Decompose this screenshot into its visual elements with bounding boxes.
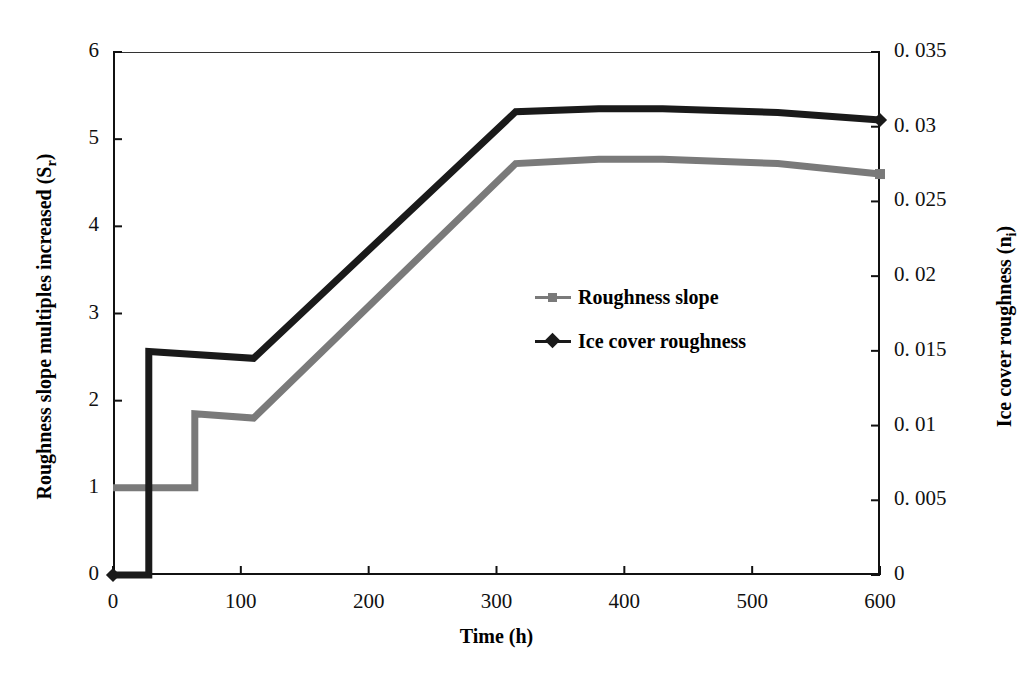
y-axis-left-title-tail: ): [33, 153, 55, 160]
legend-swatch: [535, 290, 571, 304]
plot-area: [113, 52, 880, 575]
y-axis-right-tick-label: 0. 025: [894, 187, 984, 212]
chart-figure: 6543210 0. 0350. 030. 0250. 020. 0150. 0…: [0, 0, 1030, 674]
legend-label: Ice cover roughness: [578, 330, 746, 353]
y-axis-right-tick-label: 0. 015: [894, 337, 984, 362]
y-axis-right-title-sub: i: [1003, 232, 1019, 236]
y-axis-right-tick-label: 0. 005: [894, 486, 984, 511]
y-axis-right-tick-label: 0: [894, 561, 984, 586]
x-axis-tick-label: 500: [712, 589, 792, 614]
plot-top-border: [113, 52, 880, 53]
y-axis-right-tick-label: 0. 02: [894, 262, 984, 287]
y-axis-left-title-sub: r: [43, 160, 59, 166]
chart-legend: Roughness slopeIce cover roughness: [535, 275, 746, 363]
x-axis-tick-label: 300: [457, 589, 537, 614]
x-axis-tick-label: 400: [584, 589, 664, 614]
y-axis-left-title-text: Roughness slope multiples increased (S: [33, 167, 55, 500]
y-axis-left-tick-label: 6: [39, 38, 99, 63]
legend-item[interactable]: Ice cover roughness: [535, 319, 746, 363]
legend-square-icon: [548, 293, 557, 302]
x-axis-tick-label: 600: [840, 589, 920, 614]
legend-label: Roughness slope: [578, 286, 719, 309]
x-axis-tick-label: 0: [73, 589, 153, 614]
y-axis-left-title: Roughness slope multiples increased (Sr): [33, 67, 60, 587]
legend-diamond-icon: [545, 333, 561, 349]
y-axis-right-title: Ice cover roughness (ni): [993, 67, 1020, 587]
y-axis-right-tick-label: 0. 01: [894, 412, 984, 437]
x-axis-title: Time (h): [113, 625, 880, 648]
y-axis-right-title-tail: ): [993, 226, 1015, 233]
legend-item[interactable]: Roughness slope: [535, 275, 746, 319]
y-axis-right-tick-label: 0. 035: [894, 38, 984, 63]
y-axis-right-tick-label: 0. 03: [894, 113, 984, 138]
y-axis-right-title-text: Ice cover roughness (n: [993, 236, 1015, 427]
x-axis-tick-label: 200: [329, 589, 409, 614]
x-axis-tick-label: 100: [201, 589, 281, 614]
legend-swatch: [535, 334, 571, 348]
